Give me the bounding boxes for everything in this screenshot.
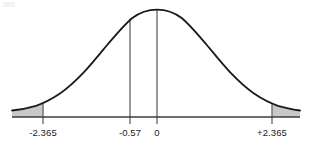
bell-curve: [12, 10, 300, 111]
axis-tick-label-test-statistic: -0.57: [119, 128, 141, 138]
axis-tick-label-right-critical: +2.365: [257, 128, 287, 138]
chart-canvas: [0, 0, 309, 146]
axis-tick-label-center: 0: [154, 128, 159, 138]
axis-tick-label-left-critical: -2.365: [29, 128, 57, 138]
normal-distribution-chart: -2.365 -0.57 0 +2.365: [0, 0, 309, 146]
